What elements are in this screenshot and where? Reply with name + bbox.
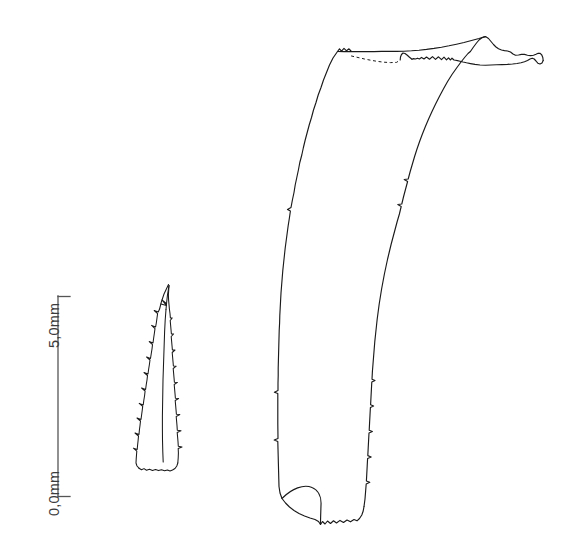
scale-bar-top-label: 5,0mm [46,303,62,348]
figure-canvas: 5,0mm 0,0mm [0,0,570,560]
scale-bar-bottom-label: 0,0mm [46,471,62,516]
drawing-svg [0,0,570,560]
figure-background [0,0,570,560]
